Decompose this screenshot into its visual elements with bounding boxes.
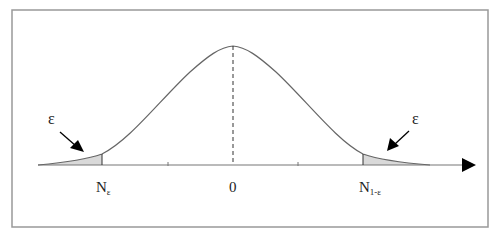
normal-distribution-diagram: ε ε Nε 0 N1-ε [0,0,498,237]
center-label: 0 [229,179,237,195]
right-epsilon-label: ε [412,110,419,127]
left-epsilon-label: ε [48,110,55,127]
